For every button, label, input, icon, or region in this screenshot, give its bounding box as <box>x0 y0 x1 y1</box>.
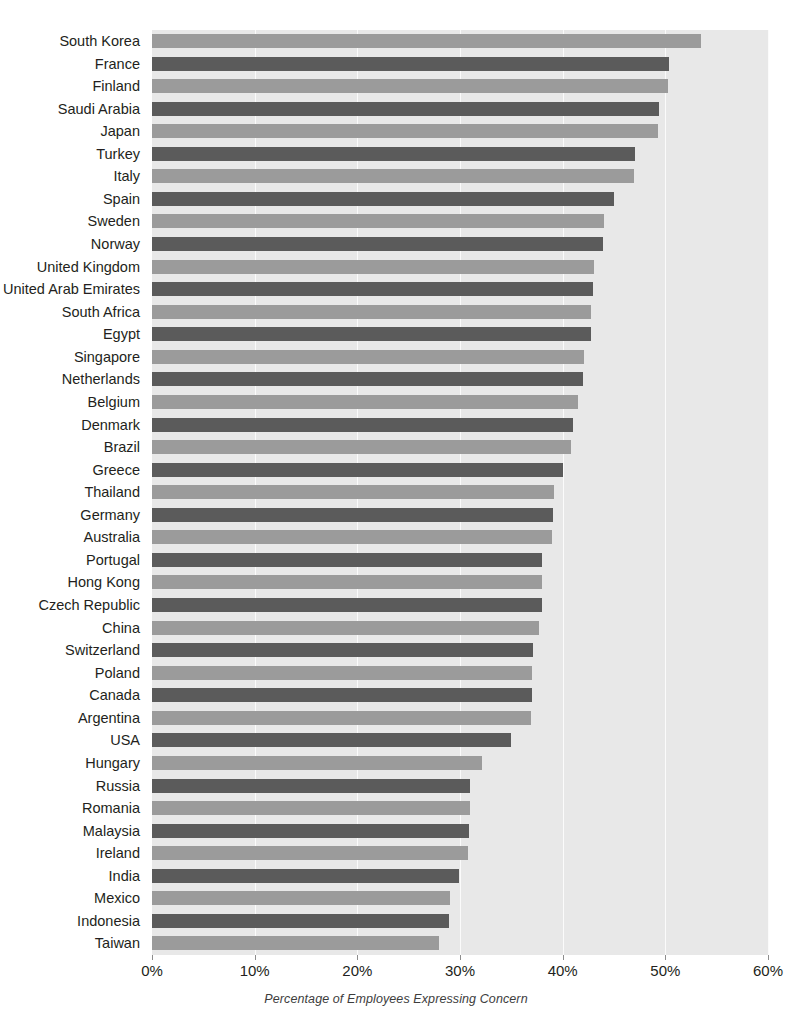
bar <box>152 79 668 93</box>
bar-row <box>152 233 768 256</box>
bar-row <box>152 887 768 910</box>
x-tick-label: 50% <box>625 962 705 979</box>
bar-row <box>152 932 768 955</box>
bar <box>152 779 470 793</box>
bar-chart-figure: South KoreaFranceFinlandSaudi ArabiaJapa… <box>0 0 792 1016</box>
bar <box>152 869 459 883</box>
bar <box>152 214 604 228</box>
bar <box>152 237 603 251</box>
x-tick-label: 10% <box>215 962 295 979</box>
bar <box>152 485 554 499</box>
bar <box>152 598 542 612</box>
bar-row <box>152 414 768 437</box>
x-tick-mark <box>152 955 153 960</box>
bar-row <box>152 256 768 279</box>
x-tick-mark <box>665 955 666 960</box>
category-label: Germany <box>0 504 146 527</box>
bar-row <box>152 526 768 549</box>
bar <box>152 643 533 657</box>
bar-row <box>152 30 768 53</box>
bar-row <box>152 143 768 166</box>
category-label: Netherlands <box>0 368 146 391</box>
category-label: Brazil <box>0 436 146 459</box>
category-label: South Korea <box>0 30 146 53</box>
category-label: France <box>0 53 146 76</box>
bar-row <box>152 188 768 211</box>
bar-row <box>152 301 768 324</box>
bar <box>152 372 583 386</box>
category-label: Sweden <box>0 210 146 233</box>
category-label: Russia <box>0 775 146 798</box>
x-tick-mark <box>768 955 769 960</box>
x-tick-label: 20% <box>317 962 397 979</box>
bar <box>152 260 594 274</box>
bar-series <box>152 30 768 955</box>
bar-row <box>152 346 768 369</box>
category-label: Czech Republic <box>0 594 146 617</box>
category-label: China <box>0 617 146 640</box>
bar <box>152 508 553 522</box>
x-tick-label: 30% <box>420 962 500 979</box>
bar <box>152 395 578 409</box>
bar <box>152 756 482 770</box>
bar-row <box>152 617 768 640</box>
category-label: Thailand <box>0 481 146 504</box>
bar-row <box>152 729 768 752</box>
x-tick-mark <box>563 955 564 960</box>
bar-row <box>152 820 768 843</box>
category-label: Spain <box>0 188 146 211</box>
x-tick-label: 0% <box>112 962 192 979</box>
category-label: United Kingdom <box>0 256 146 279</box>
category-label: Italy <box>0 165 146 188</box>
bar <box>152 327 591 341</box>
bar-row <box>152 707 768 730</box>
bar-row <box>152 75 768 98</box>
bar-row <box>152 210 768 233</box>
bar <box>152 169 634 183</box>
category-label: Egypt <box>0 323 146 346</box>
bar-row <box>152 571 768 594</box>
bar-row <box>152 98 768 121</box>
bar <box>152 102 659 116</box>
bar <box>152 936 439 950</box>
category-label: Norway <box>0 233 146 256</box>
bar <box>152 463 563 477</box>
category-label: Canada <box>0 684 146 707</box>
bar-row <box>152 323 768 346</box>
bar <box>152 57 669 71</box>
bar <box>152 553 542 567</box>
category-label: Australia <box>0 526 146 549</box>
category-label: South Africa <box>0 301 146 324</box>
bar <box>152 914 449 928</box>
bar-row <box>152 910 768 933</box>
bar-row <box>152 391 768 414</box>
bar <box>152 305 591 319</box>
category-label: Turkey <box>0 143 146 166</box>
bar <box>152 530 552 544</box>
bar-row <box>152 53 768 76</box>
x-axis-title: Percentage of Employees Expressing Conce… <box>0 992 792 1006</box>
bar <box>152 801 470 815</box>
bar-row <box>152 639 768 662</box>
bar-row <box>152 165 768 188</box>
bar <box>152 440 571 454</box>
bar <box>152 824 469 838</box>
category-label: Greece <box>0 459 146 482</box>
bar-row <box>152 504 768 527</box>
category-label: Singapore <box>0 346 146 369</box>
bar-row <box>152 594 768 617</box>
x-tick-mark <box>255 955 256 960</box>
bar <box>152 282 593 296</box>
bar <box>152 192 614 206</box>
bar-row <box>152 865 768 888</box>
plot-area <box>152 30 768 955</box>
bar <box>152 34 701 48</box>
x-tick-mark <box>357 955 358 960</box>
bar <box>152 147 635 161</box>
category-label: USA <box>0 729 146 752</box>
x-axis: 0%10%20%30%40%50%60% Percentage of Emplo… <box>0 955 792 1016</box>
x-tick-label: 60% <box>728 962 792 979</box>
category-axis-labels: South KoreaFranceFinlandSaudi ArabiaJapa… <box>0 30 146 955</box>
bar-row <box>152 549 768 572</box>
category-label: Taiwan <box>0 932 146 955</box>
